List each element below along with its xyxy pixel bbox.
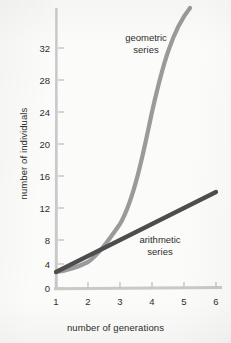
y-axis-title: number of individuals (18, 84, 29, 224)
geometric-series-label-line2: series (125, 44, 167, 56)
arithmetic-series-line (56, 192, 216, 272)
x-tick-label-2: 2 (78, 296, 98, 307)
x-tick-label-1: 1 (46, 296, 66, 307)
y-tick-label-28: 28 (28, 75, 50, 86)
y-axis (55, 8, 64, 289)
y-tick-label-32: 32 (28, 43, 50, 54)
y-tick-label-12: 12 (28, 203, 50, 214)
x-axis-line (54, 286, 222, 290)
geometric-series-curve (56, 8, 190, 272)
y-tick-label-4: 4 (28, 259, 50, 270)
arithmetic-series-label-line2: series (139, 246, 180, 258)
x-tick-label-5: 5 (174, 296, 194, 307)
y-tick-label-16: 16 (28, 171, 50, 182)
x-axis-title: number of generations (0, 322, 231, 333)
x-tick-label-6: 6 (206, 296, 226, 307)
geometric-series-label: geometric series (125, 32, 167, 55)
arithmetic-series-label-line1: arithmetic (139, 234, 180, 246)
y-tick-label-24: 24 (28, 107, 50, 118)
y-tick-label-0: 0 (28, 283, 50, 294)
y-tick-label-8: 8 (28, 235, 50, 246)
x-tick-label-3: 3 (110, 296, 130, 307)
line-chart-figure: 32 28 24 20 16 12 8 4 0 1 2 3 4 5 6 numb… (0, 0, 231, 343)
y-tick-label-20: 20 (28, 139, 50, 150)
x-tick-label-4: 4 (142, 296, 162, 307)
y-axis-ticks (58, 48, 64, 288)
y-axis-line (55, 8, 58, 289)
x-axis (54, 282, 222, 290)
arithmetic-series-label: arithmetic series (139, 234, 180, 257)
geometric-series-label-line1: geometric (125, 32, 167, 44)
